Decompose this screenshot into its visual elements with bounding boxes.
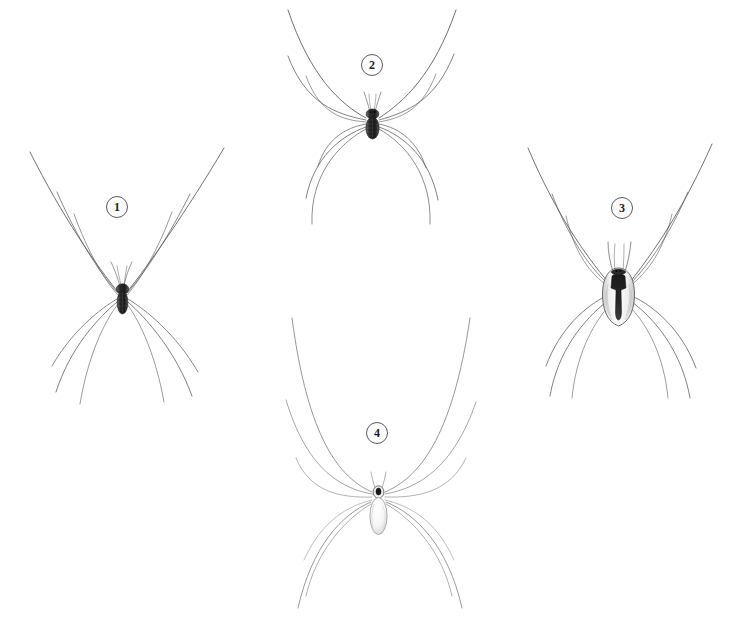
figure-label-1: 1	[106, 196, 128, 218]
figure-1-body	[116, 284, 128, 314]
figure-label-2: 2	[361, 54, 383, 76]
spider-plate-drawing	[0, 0, 741, 622]
figure-2-body	[366, 109, 379, 139]
figure-label-4: 4	[366, 422, 388, 444]
illustration-plate: 1 2 3 4	[0, 0, 741, 622]
figure-label-3: 3	[611, 197, 633, 219]
